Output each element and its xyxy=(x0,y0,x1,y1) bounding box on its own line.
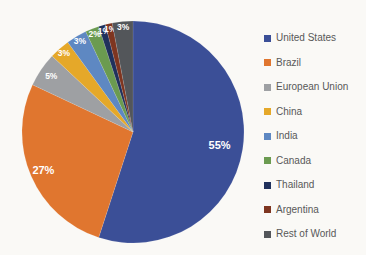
legend-swatch-thailand xyxy=(264,182,271,189)
legend-swatch-european-union xyxy=(264,84,271,91)
legend-item-rest-of-world: Rest of World xyxy=(264,222,348,247)
data-label-european-union: 5% xyxy=(45,71,58,81)
chart-legend: United StatesBrazilEuropean UnionChinaIn… xyxy=(264,26,348,247)
legend-label-canada: Canada xyxy=(276,156,311,166)
legend-item-brazil: Brazil xyxy=(264,51,348,76)
legend-swatch-canada xyxy=(264,157,271,164)
legend-swatch-brazil xyxy=(264,59,271,66)
legend-label-india: India xyxy=(276,131,298,141)
data-label-united-states: 55% xyxy=(209,139,231,151)
legend-item-united-states: United States xyxy=(264,26,348,51)
legend-swatch-india xyxy=(264,133,271,140)
legend-item-argentina: Argentina xyxy=(264,198,348,223)
legend-item-china: China xyxy=(264,100,348,125)
legend-swatch-argentina xyxy=(264,206,271,213)
legend-label-brazil: Brazil xyxy=(276,58,301,68)
legend-item-thailand: Thailand xyxy=(264,173,348,198)
legend-swatch-united-states xyxy=(264,35,271,42)
legend-label-thailand: Thailand xyxy=(276,180,314,190)
legend-item-india: India xyxy=(264,124,348,149)
data-label-rest-of-world: 3% xyxy=(117,22,130,32)
legend-swatch-rest-of-world xyxy=(264,231,271,238)
legend-label-united-states: United States xyxy=(276,33,336,43)
pie-chart-figure: 55%27%5%3%3%2%1%1%3% United StatesBrazil… xyxy=(0,0,366,255)
legend-label-argentina: Argentina xyxy=(276,205,319,215)
legend-label-china: China xyxy=(276,107,302,117)
legend-label-rest-of-world: Rest of World xyxy=(276,229,336,239)
data-label-china: 3% xyxy=(58,48,71,58)
legend-item-canada: Canada xyxy=(264,149,348,174)
legend-item-european-union: European Union xyxy=(264,75,348,100)
data-label-brazil: 27% xyxy=(32,164,54,176)
legend-label-european-union: European Union xyxy=(276,82,348,92)
data-label-india: 3% xyxy=(74,36,87,46)
legend-swatch-china xyxy=(264,108,271,115)
